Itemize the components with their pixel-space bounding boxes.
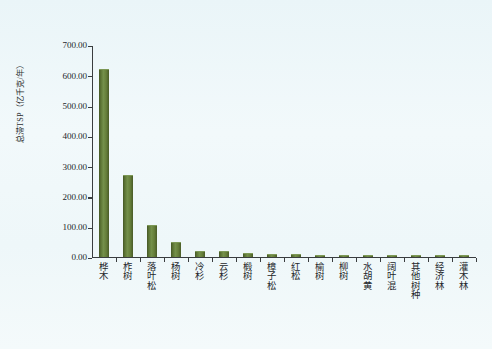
x-axis-tick-label: 榆树 xyxy=(314,262,324,281)
y-axis-tick-label: 300.00 xyxy=(41,163,87,172)
y-axis-tick-label: 600.00 xyxy=(41,72,87,81)
bar xyxy=(267,254,277,257)
y-axis-tick-label: 400.00 xyxy=(41,132,87,141)
plot-area xyxy=(92,46,476,258)
x-axis-tick-label: 灌木林 xyxy=(458,262,468,290)
y-axis-tick-labels: 700.00600.00500.00400.00300.00200.00100.… xyxy=(41,0,87,349)
x-axis-tick-label: 红松 xyxy=(290,262,300,281)
bar xyxy=(387,255,397,257)
bar xyxy=(363,255,373,257)
x-axis-tick-label: 柳树 xyxy=(338,262,348,281)
x-axis-tick-label: 樟子松 xyxy=(266,262,276,290)
bar xyxy=(339,255,349,257)
x-axis-tick-labels: 桦木柞树落叶松杨树冷杉云杉椴树樟子松红松榆树柳树水胡黄阔叶混其他树种经济林灌木林 xyxy=(92,262,476,349)
y-axis-tick-label: 100.00 xyxy=(41,223,87,232)
x-axis-tick-label: 其他树种 xyxy=(410,262,420,300)
bar xyxy=(435,255,445,257)
bar xyxy=(315,255,325,257)
x-axis-tick-label: 桦木 xyxy=(98,262,108,281)
y-axis-tick-label: 0.00 xyxy=(41,253,87,262)
bar-chart: 总滞TSP（亿千克/年） 700.00600.00500.00400.00300… xyxy=(0,0,492,349)
bar xyxy=(99,69,109,256)
y-axis-tick-mark xyxy=(88,258,92,259)
y-axis-line xyxy=(92,46,93,258)
y-axis-tick-label: 200.00 xyxy=(41,193,87,202)
bar xyxy=(219,251,229,256)
y-axis-tick-mark xyxy=(88,46,92,47)
y-axis-tick-mark xyxy=(88,76,92,77)
bar xyxy=(123,175,133,257)
y-axis-tick-mark xyxy=(88,107,92,108)
bar xyxy=(243,253,253,256)
y-axis-tick-mark xyxy=(88,137,92,138)
bar xyxy=(147,225,157,257)
x-axis-tick-label: 椴树 xyxy=(242,262,252,281)
y-axis-title: 总滞TSP（亿千克/年） xyxy=(13,22,25,182)
bar xyxy=(411,255,421,257)
x-axis-tick-label: 阔叶混 xyxy=(386,262,396,290)
x-axis-tick-label: 云杉 xyxy=(218,262,228,281)
x-axis-tick-label: 冷杉 xyxy=(194,262,204,281)
x-axis-tick-label: 柞树 xyxy=(122,262,132,281)
x-axis-tick-label: 水胡黄 xyxy=(362,262,372,290)
x-axis-tick-label: 落叶松 xyxy=(146,262,156,290)
bar xyxy=(195,251,205,257)
bar xyxy=(459,255,469,257)
y-axis-tick-mark xyxy=(88,167,92,168)
y-axis-tick-label: 700.00 xyxy=(41,41,87,50)
bar xyxy=(291,254,301,256)
bar xyxy=(171,242,181,256)
x-axis-tick-mark xyxy=(476,258,477,262)
x-axis-tick-label: 杨树 xyxy=(170,262,180,281)
y-axis-tick-mark xyxy=(88,197,92,198)
y-axis-tick-label: 500.00 xyxy=(41,102,87,111)
x-axis-tick-label: 经济林 xyxy=(434,262,444,290)
y-axis-tick-mark xyxy=(88,228,92,229)
